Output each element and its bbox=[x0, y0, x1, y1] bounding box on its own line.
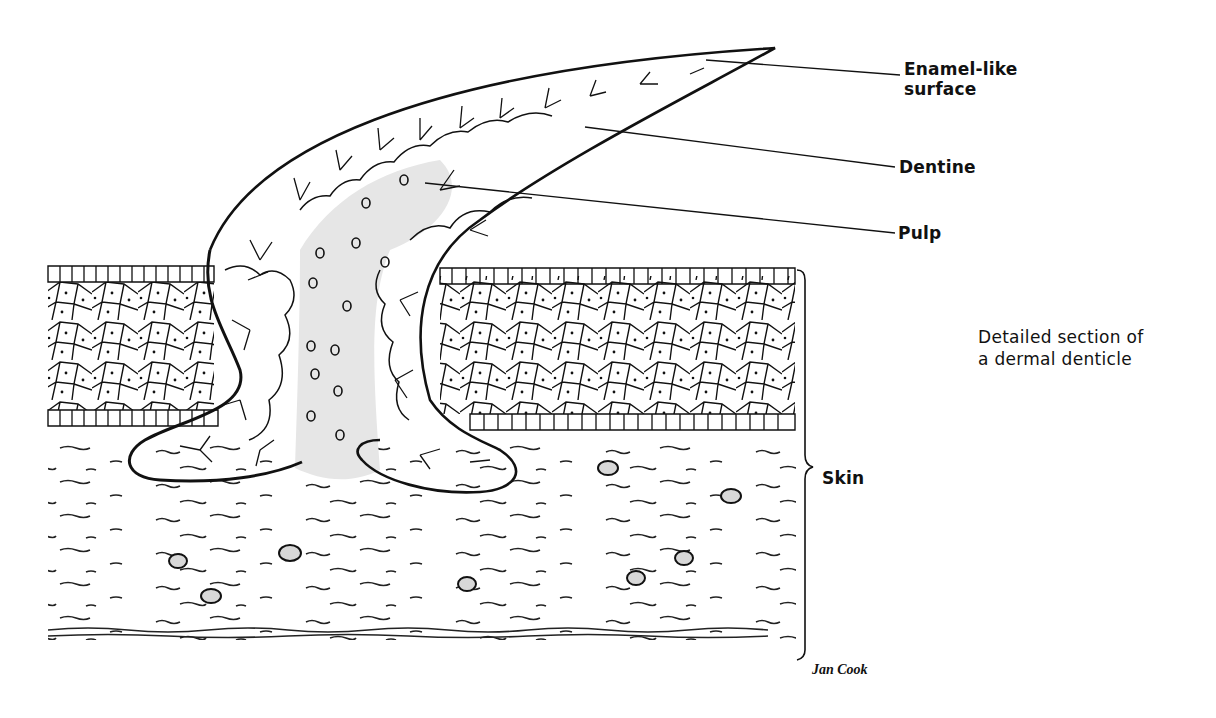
enamel-label-line1: Enamel-like bbox=[904, 59, 1018, 79]
caption-line2: a dermal denticle bbox=[978, 348, 1143, 370]
enamel-label: Enamel-like surface bbox=[904, 59, 1018, 99]
skin-label: Skin bbox=[822, 468, 864, 488]
figure-caption: Detailed section of a dermal denticle bbox=[978, 326, 1143, 370]
pulp-label: Pulp bbox=[898, 223, 941, 243]
caption-line1: Detailed section of bbox=[978, 326, 1143, 348]
skin-brace bbox=[797, 270, 813, 660]
dentine-label: Dentine bbox=[899, 157, 976, 177]
artist-signature: Jan Cook bbox=[812, 662, 868, 678]
dermis-layer bbox=[48, 440, 796, 640]
enamel-label-line2: surface bbox=[904, 79, 1018, 99]
